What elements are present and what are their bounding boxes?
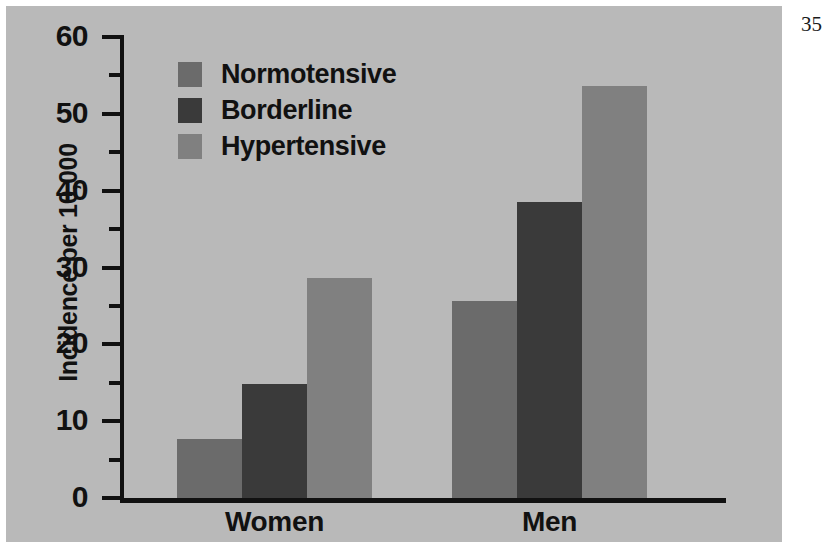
legend-label: Borderline [221, 95, 352, 126]
legend-swatch-icon [178, 62, 202, 87]
y-axis-major-tick [102, 266, 124, 270]
y-axis-tick-label: 0 [72, 482, 88, 512]
y-axis-tick-label: 10 [56, 405, 88, 435]
legend-swatch-icon [178, 134, 202, 159]
y-axis-tick-label: 20 [56, 328, 88, 358]
y-axis-minor-tick [109, 227, 124, 231]
y-axis-major-tick [102, 342, 124, 346]
y-axis-minor-tick [109, 304, 124, 308]
y-axis-major-tick [102, 496, 124, 500]
legend-label: Hypertensive [221, 131, 386, 162]
y-axis-minor-tick [109, 458, 124, 462]
bar-men-borderline [517, 202, 582, 498]
y-axis-minor-tick [109, 73, 124, 77]
bar-men-normotensive [452, 301, 517, 498]
bar-men-hypertensive [582, 86, 647, 498]
y-axis-tick-label: 30 [56, 252, 88, 282]
bar-chart: Incidence per 10,000 0102030405060 Women… [6, 6, 782, 542]
bar-women-normotensive [177, 439, 242, 498]
y-axis-major-tick [102, 419, 124, 423]
x-axis-label-men: Men [452, 506, 647, 538]
y-axis-minor-tick [109, 381, 124, 385]
legend-swatch-icon [178, 98, 202, 123]
x-axis-line [120, 498, 726, 503]
y-axis-tick-label: 40 [56, 175, 88, 205]
legend-label: Normotensive [221, 59, 396, 90]
y-axis-tick-label: 60 [56, 21, 88, 51]
figure-panel: Incidence per 10,000 0102030405060 Women… [6, 6, 782, 542]
legend-item-hypertensive: Hypertensive [178, 130, 396, 163]
y-axis-major-tick [102, 189, 124, 193]
y-axis-major-tick [102, 112, 124, 116]
page-number: 35 [801, 14, 822, 35]
x-axis-label-women: Women [177, 506, 372, 538]
y-axis-minor-tick [109, 150, 124, 154]
bar-women-borderline [242, 384, 307, 498]
legend-item-normotensive: Normotensive [178, 58, 396, 91]
legend-item-borderline: Borderline [178, 94, 396, 127]
bar-women-hypertensive [307, 278, 372, 499]
chart-legend: NormotensiveBorderlineHypertensive [178, 58, 396, 166]
y-axis-tick-label: 50 [56, 98, 88, 128]
y-axis-major-tick [102, 35, 124, 39]
